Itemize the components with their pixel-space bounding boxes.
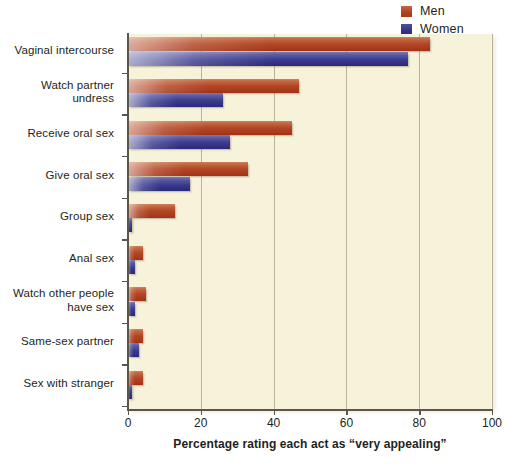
- legend-item-men: Men: [401, 3, 506, 19]
- bar-men: [128, 246, 143, 260]
- x-axis-tick: [128, 410, 129, 415]
- y-axis-category-label: Watch other peoplehave sex: [0, 287, 121, 314]
- x-axis-title: Percentage rating each act as “very appe…: [128, 437, 492, 451]
- y-axis-category-label: Anal sex: [0, 252, 121, 266]
- y-axis-labels: Vaginal intercourseWatch partnerundressR…: [0, 34, 121, 409]
- x-axis-tick-label: 20: [181, 416, 221, 430]
- y-axis-label-line: Give oral sex: [0, 169, 114, 183]
- y-axis-label-line: Vaginal intercourse: [0, 44, 114, 58]
- y-axis-category-label: Sex with stranger: [0, 377, 121, 391]
- y-axis-category-label: Vaginal intercourse: [0, 44, 121, 58]
- y-axis-label-line: Group sex: [0, 210, 114, 224]
- x-axis-tick: [419, 410, 420, 415]
- y-axis-tick: [122, 156, 128, 157]
- y-axis-label-line: Sex with stranger: [0, 377, 114, 391]
- y-axis-category-label: Group sex: [0, 210, 121, 224]
- bar-men: [128, 329, 143, 343]
- x-axis-tick: [346, 410, 347, 415]
- x-axis-tick-label: 80: [399, 416, 439, 430]
- y-axis-label-line: Watch other people: [0, 287, 114, 301]
- y-axis-tick: [122, 281, 128, 282]
- x-axis-tick-label: 40: [254, 416, 294, 430]
- bar-women: [128, 260, 135, 274]
- y-axis-tick: [122, 73, 128, 74]
- x-axis-tick: [492, 410, 493, 415]
- bar-men: [128, 204, 175, 218]
- bar-women: [128, 52, 408, 66]
- x-axis-line: [127, 409, 493, 411]
- legend-swatch-women-icon: [401, 24, 412, 35]
- bar-men: [128, 37, 430, 51]
- bar-men: [128, 79, 299, 93]
- y-axis-tick: [122, 406, 128, 407]
- y-axis-tick: [122, 114, 128, 115]
- y-axis-category-label: Watch partnerundress: [0, 79, 121, 106]
- bar-men: [128, 287, 146, 301]
- bar-women: [128, 302, 135, 316]
- y-axis-tick: [122, 323, 128, 324]
- y-axis-label-line: Watch partner: [0, 79, 114, 93]
- y-axis-label-line: undress: [0, 92, 114, 106]
- legend-swatch-men-icon: [401, 6, 412, 17]
- bar-women: [128, 343, 139, 357]
- y-axis-category-label: Same-sex partner: [0, 335, 121, 349]
- legend-label-men: Men: [420, 4, 445, 18]
- x-axis-tick-label: 0: [108, 416, 148, 430]
- bar-women: [128, 135, 230, 149]
- y-axis-category-label: Receive oral sex: [0, 127, 121, 141]
- x-axis-tick: [274, 410, 275, 415]
- y-axis-category-label: Give oral sex: [0, 169, 121, 183]
- bar-chart: Men Women Vaginal intercourseWatch partn…: [0, 0, 519, 473]
- bars-layer: [128, 34, 492, 409]
- gridline: [492, 34, 493, 409]
- bar-women: [128, 177, 190, 191]
- y-axis-tick: [122, 198, 128, 199]
- x-axis-tick: [201, 410, 202, 415]
- y-axis-tick: [122, 239, 128, 240]
- y-axis-label-line: Anal sex: [0, 252, 114, 266]
- bar-men: [128, 371, 143, 385]
- x-axis-tick-label: 100: [472, 416, 512, 430]
- y-axis-label-line: Same-sex partner: [0, 335, 114, 349]
- bar-women: [128, 93, 223, 107]
- bar-men: [128, 162, 248, 176]
- y-axis-tick: [122, 364, 128, 365]
- y-axis-label-line: have sex: [0, 301, 114, 315]
- y-axis-label-line: Receive oral sex: [0, 127, 114, 141]
- x-axis-tick-label: 60: [326, 416, 366, 430]
- bar-men: [128, 121, 292, 135]
- y-axis-line: [127, 33, 129, 410]
